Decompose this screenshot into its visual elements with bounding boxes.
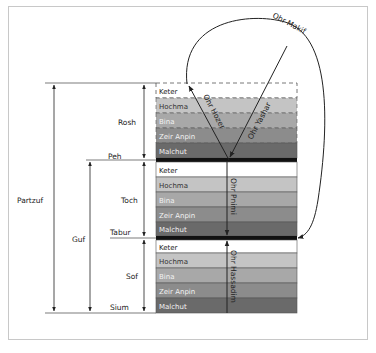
peh-label: Peh (108, 152, 122, 161)
sof-hochma-label: Hochma (159, 258, 188, 266)
tabur-label: Tabur (109, 228, 131, 237)
rosh-hochma-label: Hochma (159, 103, 188, 111)
partzuf-diagram: Keter Hochma Bina Zeir Anpin Malchut Ket… (0, 0, 376, 353)
toch-zeir-anpin-label: Zeir Anpin (159, 212, 195, 220)
ohr-makif-label: Ohr Makif (271, 11, 308, 36)
sof-label: Sof (126, 272, 138, 281)
toch-malchut-label: Malchut (159, 226, 187, 234)
peh-screen (156, 158, 297, 162)
sof-zeir-anpin-label: Zeir Anpin (159, 288, 195, 296)
toch-label: Toch (120, 196, 138, 205)
rosh-zeir-anpin-label: Zeir Anpin (159, 133, 195, 141)
toch-keter-label: Keter (159, 167, 178, 175)
sof-keter-label: Keter (159, 244, 178, 252)
toch-bina-label: Bina (159, 197, 174, 205)
rosh-malchut-label: Malchut (159, 148, 187, 156)
guf-label: Guf (72, 235, 86, 244)
ohr-hassadim-label: Ohr Hassadim (229, 250, 238, 303)
sof-bina-label: Bina (159, 273, 174, 281)
rosh-keter-label: Keter (159, 88, 178, 96)
rosh-bina-label: Bina (159, 118, 174, 126)
toch-hochma-label: Hochma (159, 182, 188, 190)
ohr-pnimi-label: Ohr Pnimi (229, 178, 238, 215)
partzuf-label: Partzuf (17, 196, 43, 205)
tabur-screen (156, 236, 297, 240)
sium-label: Sium (110, 303, 129, 312)
boundary-lines (45, 83, 156, 313)
rosh-label: Rosh (118, 118, 136, 127)
sof-malchut-label: Malchut (159, 303, 187, 311)
